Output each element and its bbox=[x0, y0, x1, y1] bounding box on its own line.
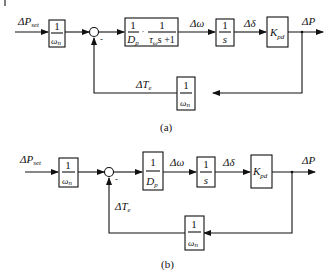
svg-text:s: s bbox=[204, 174, 208, 186]
svg-text:·: · bbox=[142, 27, 145, 36]
transfer-block-1-over-dp-b: 1 Dp bbox=[143, 152, 163, 190]
feedback-block-1-over-omega-n-a: 1 ωn bbox=[177, 77, 195, 110]
diagram-b: ΔPset 1 ωn - 1 Dp Δω 1 s Δδ bbox=[19, 152, 315, 271]
gain-block-1-over-omega-n-a: 1 ωn bbox=[49, 20, 65, 47]
output-label-b: ΔP bbox=[301, 154, 315, 166]
signal-omega-label-a: Δω bbox=[189, 17, 204, 29]
svg-text:1: 1 bbox=[183, 79, 189, 91]
signal-delta-label-b: Δδ bbox=[222, 156, 235, 168]
minus-sign-a: - bbox=[100, 34, 103, 44]
input-label-b: ΔPset bbox=[19, 153, 42, 167]
svg-text:1: 1 bbox=[150, 156, 156, 168]
svg-text:1: 1 bbox=[130, 19, 136, 31]
transfer-block-damping-a: 1 Dp · 1 τωs +1 bbox=[125, 18, 178, 47]
input-label-a: ΔPset bbox=[17, 15, 40, 29]
feedback-label-b: ΔTe bbox=[114, 200, 131, 214]
svg-text:1: 1 bbox=[159, 19, 165, 31]
svg-text:1: 1 bbox=[191, 218, 197, 230]
caption-b: (b) bbox=[161, 258, 174, 271]
gain-block-kpd-a: Kpd bbox=[267, 17, 288, 47]
gain-block-kpd-b: Kpd bbox=[251, 155, 272, 188]
feedback-label-a: ΔTe bbox=[135, 78, 152, 92]
svg-text:1: 1 bbox=[222, 19, 228, 31]
feedback-line-right-b bbox=[204, 172, 292, 233]
feedback-block-1-over-omega-n-b: 1 ωn bbox=[185, 216, 204, 250]
svg-text:s: s bbox=[223, 33, 227, 45]
signal-delta-label-a: Δδ bbox=[243, 17, 256, 29]
minus-sign-b: - bbox=[115, 174, 118, 184]
integrator-block-a: 1 s bbox=[216, 19, 234, 46]
diagram-a: ΔPset 1 ωn - 1 Dp · 1 τωs +1 Δω bbox=[15, 15, 323, 134]
signal-omega-label-b: Δω bbox=[169, 156, 184, 168]
caption-a: (a) bbox=[160, 121, 173, 134]
output-label-a: ΔP bbox=[301, 15, 315, 27]
svg-text:1: 1 bbox=[54, 20, 60, 32]
block-diagrams: ΔPset 1 ωn - 1 Dp · 1 τωs +1 Δω bbox=[0, 0, 335, 280]
svg-text:1: 1 bbox=[203, 158, 209, 170]
gain-block-1-over-omega-n-b: 1 ωn bbox=[59, 158, 78, 187]
integrator-block-b: 1 s bbox=[197, 157, 215, 187]
summing-junction-a bbox=[90, 28, 99, 37]
summing-junction-b bbox=[105, 168, 114, 177]
svg-text:1: 1 bbox=[65, 159, 71, 171]
